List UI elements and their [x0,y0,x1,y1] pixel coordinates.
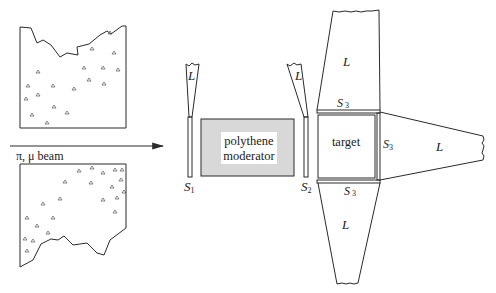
s1-assembly: L S1 [184,63,199,195]
s3-bottom-label: S3 [344,184,356,198]
target-label: target [332,135,361,149]
s2-scintillator [304,117,308,177]
beam-label: π, μ beam [16,149,64,163]
polythene-moderator: polythene moderator [201,119,294,176]
s1-scintillator [188,117,192,177]
diagram-canvas: π, μ beam L S1 polythene moderator L S [0,0,496,293]
right-light-guide: L [380,112,484,180]
s2-label: S2 [301,179,312,195]
target: target [318,115,375,178]
s3-right-scintillator [377,113,380,180]
bottom-light-guide: L [318,183,380,284]
moderator-label-line2: moderator [223,149,275,163]
top-light-guide: L [317,10,380,110]
top-light-guide-label: L [342,54,350,69]
s3-top-scintillator [317,110,380,113]
bottom-shield-block [20,164,126,267]
right-light-guide-label: L [435,139,443,154]
s2-light-guide-label: L [294,68,302,83]
s3-top-label: S3 [337,96,349,110]
bottom-light-guide-label: L [341,217,349,232]
s3-bottom-scintillator [317,180,380,183]
top-shield-block [20,26,126,128]
s1-label: S1 [184,179,195,195]
s3-right-label: S3 [383,137,393,152]
s1-light-guide-label: L [187,68,195,83]
aggregate-specks-top [24,31,120,124]
moderator-label-line1: polythene [224,134,274,148]
